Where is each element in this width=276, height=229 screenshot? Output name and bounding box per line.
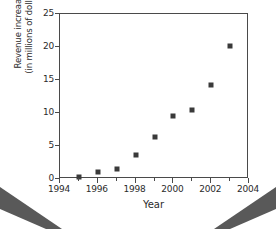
y-axis-tick-label: 0 xyxy=(48,174,54,183)
x-axis-minor-tick-mark xyxy=(229,178,230,181)
data-point xyxy=(171,114,176,119)
y-axis-tick-label: 20 xyxy=(43,42,54,51)
data-point xyxy=(209,82,214,87)
data-point xyxy=(228,44,233,49)
x-axis-tick-label: 1996 xyxy=(86,184,108,194)
plot-area xyxy=(59,13,248,178)
y-axis-tick-label: 25 xyxy=(43,9,54,18)
y-axis-tick-label: 10 xyxy=(43,108,54,117)
x-axis-tick-mark xyxy=(97,178,98,183)
x-axis-tick-mark xyxy=(248,178,249,183)
x-axis-tick-label: 2000 xyxy=(161,184,183,194)
x-axis-tick-mark xyxy=(172,178,173,183)
data-point xyxy=(190,107,195,112)
data-point xyxy=(152,134,157,139)
data-point xyxy=(95,169,100,174)
x-axis-minor-tick-mark xyxy=(154,178,155,181)
data-point xyxy=(133,153,138,158)
x-axis-minor-tick-mark xyxy=(116,178,117,181)
page-corner-wedge-right-icon xyxy=(214,185,276,229)
x-axis-minor-tick-mark xyxy=(78,178,79,181)
data-point xyxy=(114,167,119,172)
x-axis-tick-mark xyxy=(210,178,211,183)
x-axis-tick-label: 1998 xyxy=(124,184,146,194)
y-axis-tick-label: 15 xyxy=(43,75,54,84)
y-axis-tick-label: 5 xyxy=(48,141,54,150)
x-axis-minor-tick-mark xyxy=(191,178,192,181)
x-axis-tick-mark xyxy=(135,178,136,183)
page-corner-wedge-left-icon xyxy=(0,185,62,229)
x-axis-tick-mark xyxy=(59,178,60,183)
chart-figure: Revenue increaase (in millions of dollar… xyxy=(0,0,276,229)
